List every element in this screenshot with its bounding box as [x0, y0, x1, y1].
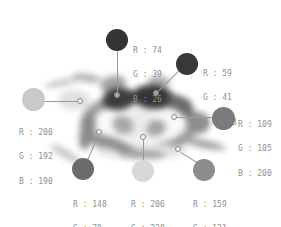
rgb-line-g: G : 121 — [193, 225, 227, 227]
leader-line — [143, 140, 144, 160]
rgb-line-g: G : 105 — [238, 145, 272, 153]
color-swatch — [132, 160, 154, 182]
leader-line — [177, 117, 212, 118]
sample-point-ring — [96, 129, 102, 135]
color-swatch — [72, 158, 94, 180]
rgb-line-r: R : 159 — [193, 201, 227, 209]
sample-point-ring — [114, 92, 120, 98]
rgb-line-g: G : 79 — [73, 225, 107, 227]
rgb-line-r: R : 200 — [19, 129, 53, 137]
rgb-line-r: R : 59 — [203, 70, 237, 78]
leader-line — [117, 51, 118, 92]
sample-point-ring — [175, 146, 181, 152]
rgb-value-label: R : 148 G : 79 B : 111 — [73, 184, 107, 227]
color-swatch — [176, 53, 198, 75]
color-swatch — [212, 107, 235, 130]
rgb-line-b: B : 190 — [19, 178, 53, 186]
leader-line — [44, 101, 77, 102]
sample-point-ring — [153, 90, 159, 96]
rgb-value-label: R : 159 G : 121 B : 73 — [193, 184, 227, 227]
sample-point-ring — [77, 98, 83, 104]
rgb-line-b: B : 26 — [133, 96, 162, 104]
rgb-line-r: R : 109 — [238, 121, 272, 129]
rgb-line-b: B : 200 — [238, 170, 272, 178]
rgb-line-g: G : 39 — [133, 71, 162, 79]
photo-blob — [44, 77, 79, 90]
rgb-line-g: G : 41 — [203, 94, 237, 102]
annotated-image: R : 74 G : 39 B : 26 R : 59 G : 41 B : 1… — [0, 0, 281, 227]
sample-point-ring — [171, 114, 177, 120]
color-swatch — [106, 29, 128, 51]
rgb-line-r: R : 206 — [131, 201, 165, 209]
color-swatch — [22, 88, 45, 111]
rgb-line-g: G : 228 — [131, 225, 165, 227]
rgb-value-label: R : 74 G : 39 B : 26 — [133, 30, 162, 121]
rgb-value-label: R : 59 G : 41 B : 103 — [203, 53, 237, 144]
rgb-value-label: R : 206 G : 228 B : 143 — [131, 184, 165, 227]
rgb-line-g: G : 192 — [19, 153, 53, 161]
photo-blob — [72, 72, 103, 84]
color-swatch — [193, 159, 215, 181]
sample-point-ring — [140, 134, 146, 140]
rgb-line-r: R : 148 — [73, 201, 107, 209]
rgb-line-r: R : 74 — [133, 47, 162, 55]
rgb-value-label: R : 109 G : 105 B : 200 — [238, 104, 272, 195]
rgb-value-label: R : 200 G : 192 B : 190 — [19, 112, 53, 203]
